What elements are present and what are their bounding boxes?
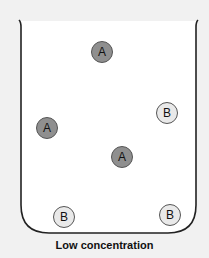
particle-label: A: [43, 121, 51, 135]
particle-label: A: [98, 45, 106, 59]
particle-a-3: A: [111, 146, 133, 168]
particle-b-1: B: [156, 102, 178, 124]
particle-b-3: B: [159, 204, 181, 226]
particle-b-2: B: [53, 206, 75, 228]
particle-label: B: [163, 106, 171, 120]
particle-label: B: [60, 210, 68, 224]
diagram-caption: Low concentration: [0, 239, 209, 251]
particle-label: A: [118, 150, 126, 164]
particle-label: B: [166, 208, 174, 222]
particle-a-1: A: [91, 41, 113, 63]
particle-a-2: A: [36, 117, 58, 139]
